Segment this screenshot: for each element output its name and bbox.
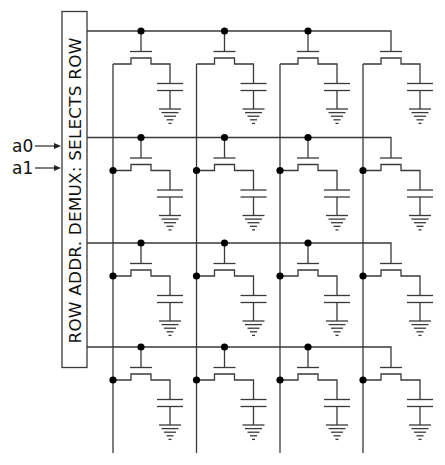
- transistor-channel: [280, 58, 337, 84]
- cell-r1-c3: [359, 158, 433, 230]
- word-line-0: [87, 31, 391, 52]
- ground-icon: [409, 321, 431, 335]
- bit-line-junction-dot: [359, 376, 366, 383]
- input-label: a0: [12, 136, 33, 156]
- memory-cells: [109, 27, 433, 439]
- transistor-channel: [113, 165, 170, 191]
- bit-line-junction-dot: [193, 376, 200, 383]
- cell-r0-c0: [113, 27, 183, 123]
- row-address-demux: ROW ADDR. DEMUX: SELECTS ROW: [62, 12, 87, 368]
- transistor-channel: [197, 165, 254, 191]
- word-line-junction-dot: [221, 27, 228, 34]
- transistor-channel: [113, 58, 170, 84]
- cell-r1-c0: [109, 134, 183, 230]
- transistor-channel: [363, 165, 420, 191]
- ground-icon: [409, 425, 431, 439]
- word-line-3: [87, 347, 391, 368]
- ground-icon: [159, 109, 181, 123]
- transistor-channel: [197, 374, 254, 400]
- arrow-right-icon: [54, 165, 61, 171]
- cell-r1-c1: [193, 134, 267, 230]
- bit-line-junction-dot: [109, 376, 116, 383]
- transistor-channel: [197, 58, 254, 84]
- bit-line-junction-dot: [193, 272, 200, 279]
- transistor-channel: [113, 374, 170, 400]
- ground-icon: [243, 216, 265, 230]
- word-line-junction-dot: [137, 239, 144, 246]
- ground-icon: [326, 109, 348, 123]
- cell-r2-c3: [359, 264, 433, 336]
- ground-icon: [159, 216, 181, 230]
- transistor-channel: [197, 270, 254, 296]
- cell-r1-c2: [276, 134, 350, 230]
- ground-icon: [159, 321, 181, 335]
- bit-line-junction-dot: [109, 272, 116, 279]
- bit-line-junction-dot: [359, 167, 366, 174]
- cell-r3-c0: [109, 343, 183, 439]
- word-line-junction-dot: [137, 343, 144, 350]
- word-lines: [87, 31, 391, 368]
- cell-r2-c0: [109, 239, 183, 335]
- word-line-2: [87, 243, 391, 264]
- ground-icon: [243, 425, 265, 439]
- dram-array-diagram: ROW ADDR. DEMUX: SELECTS ROW a0a1: [0, 0, 445, 465]
- transistor-channel: [280, 270, 337, 296]
- bit-line-junction-dot: [276, 272, 283, 279]
- bit-line-junction-dot: [109, 167, 116, 174]
- ground-icon: [243, 109, 265, 123]
- address-inputs: a0a1: [12, 136, 61, 178]
- transistor-channel: [363, 58, 420, 84]
- ground-icon: [409, 216, 431, 230]
- ground-icon: [243, 321, 265, 335]
- word-line-junction-dot: [137, 27, 144, 34]
- bit-lines: [113, 64, 363, 453]
- word-line-junction-dot: [221, 239, 228, 246]
- transistor-channel: [113, 270, 170, 296]
- transistor-channel: [280, 374, 337, 400]
- bit-line-junction-dot: [276, 376, 283, 383]
- cell-r0-c2: [280, 27, 350, 123]
- word-line-1: [87, 138, 391, 159]
- ground-icon: [326, 425, 348, 439]
- word-line-junction-dot: [304, 27, 311, 34]
- cell-r3-c1: [193, 343, 267, 439]
- word-line-junction-dot: [304, 343, 311, 350]
- ground-icon: [409, 109, 431, 123]
- ground-icon: [159, 425, 181, 439]
- transistor-channel: [363, 374, 420, 400]
- demux-label: ROW ADDR. DEMUX: SELECTS ROW: [66, 38, 85, 344]
- cell-r3-c2: [276, 343, 350, 439]
- bit-line-junction-dot: [359, 272, 366, 279]
- word-line-junction-dot: [221, 134, 228, 141]
- word-line-junction-dot: [304, 239, 311, 246]
- cell-r0-c3: [363, 52, 433, 124]
- transistor-channel: [280, 165, 337, 191]
- word-line-junction-dot: [304, 134, 311, 141]
- word-line-junction-dot: [221, 343, 228, 350]
- address-input-a1: a1: [12, 158, 61, 178]
- input-label: a1: [12, 158, 33, 178]
- ground-icon: [326, 321, 348, 335]
- cell-r2-c2: [276, 239, 350, 335]
- bit-line-junction-dot: [193, 167, 200, 174]
- cell-r0-c1: [197, 27, 267, 123]
- cell-r3-c3: [359, 368, 433, 440]
- address-input-a0: a0: [12, 136, 61, 156]
- ground-icon: [326, 216, 348, 230]
- cell-r2-c1: [193, 239, 267, 335]
- transistor-channel: [363, 270, 420, 296]
- arrow-right-icon: [54, 143, 61, 149]
- bit-line-junction-dot: [276, 167, 283, 174]
- word-line-junction-dot: [137, 134, 144, 141]
